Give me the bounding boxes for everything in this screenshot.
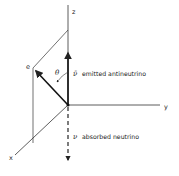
electron-arrow <box>36 71 68 105</box>
origin-point <box>67 104 70 107</box>
neutrino-symbol: ν <box>73 133 78 141</box>
electron-label: e <box>26 63 30 71</box>
theta-label: θ <box>55 69 60 77</box>
y-axis-label: y <box>164 103 168 111</box>
neutrino-angle-diagram: z y x e θ ν̄ emitted antineutrino ν abso… <box>0 0 179 176</box>
antineutrino-label: emitted antineutrino <box>82 70 146 77</box>
z-axis-label: z <box>72 8 76 16</box>
x-axis-label: x <box>9 154 13 162</box>
neutrino-label: absorbed neutrino <box>82 133 139 140</box>
x-axis <box>15 105 68 155</box>
antineutrino-symbol: ν̄ <box>73 70 78 78</box>
projection-to-z <box>33 30 68 68</box>
